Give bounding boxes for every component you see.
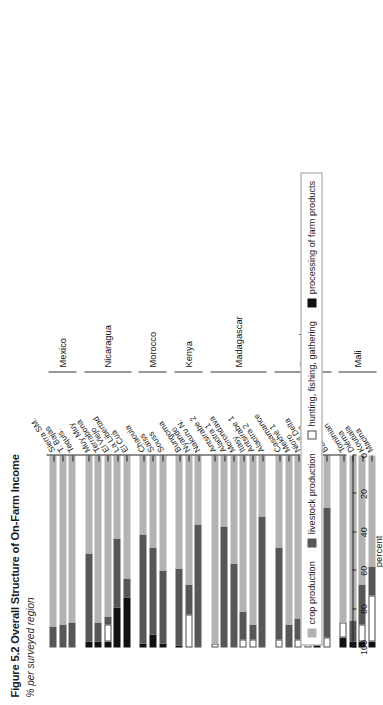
category-tick xyxy=(214,455,215,461)
x-axis-label: percent xyxy=(372,455,383,647)
legend-item-hunt: hunting, fishing, gathering xyxy=(306,321,316,439)
category-tick xyxy=(53,455,54,461)
bar-row xyxy=(275,455,282,647)
bar-row xyxy=(123,455,130,647)
bar-row xyxy=(211,455,218,647)
bar-row xyxy=(185,455,192,647)
bar-segment-live xyxy=(175,568,182,645)
bar-segment-live xyxy=(258,516,265,647)
category-tick xyxy=(143,455,144,461)
bar-segment-live xyxy=(230,563,237,647)
bar-row xyxy=(339,455,346,647)
bar-segment-live xyxy=(275,547,282,639)
legend-label: hunting, fishing, gathering xyxy=(306,321,316,426)
bar-segment-hunt xyxy=(211,643,218,647)
bar-segment-proc xyxy=(123,597,130,647)
bar-segment-crop xyxy=(185,455,192,584)
bar-segment-crop xyxy=(249,455,256,624)
bar-segment-live xyxy=(159,570,166,643)
category-tick xyxy=(198,455,199,461)
bar-row xyxy=(113,455,120,647)
bar-segment-live xyxy=(323,507,330,638)
category-tick xyxy=(72,455,73,461)
bar-segment-live xyxy=(59,624,66,647)
category-tick xyxy=(352,455,353,461)
bar-segment-live xyxy=(285,624,292,647)
x-axis-tick-label: 20 xyxy=(358,488,368,498)
bar-row xyxy=(239,455,246,647)
bar-segment-live xyxy=(185,584,192,615)
bar-segment-hunt xyxy=(239,639,246,647)
bar-row xyxy=(49,455,56,647)
bar-segment-live xyxy=(123,578,130,597)
bar-segment-crop xyxy=(175,455,182,568)
category-tick xyxy=(243,455,244,461)
bar-segment-crop xyxy=(68,455,75,622)
bar-segment-crop xyxy=(159,455,166,570)
bar-segment-proc xyxy=(339,637,346,647)
chart-legend: crop productionlivestock productionhunti… xyxy=(300,172,322,645)
category-tick xyxy=(179,455,180,461)
legend-item-proc: processing of farm products xyxy=(306,180,316,306)
bar-row xyxy=(159,455,166,647)
bar-row xyxy=(323,455,330,647)
bar-segment-crop xyxy=(49,455,56,626)
country-group-name: Mali xyxy=(352,350,362,367)
country-group-rule xyxy=(138,371,166,372)
bar-row xyxy=(59,455,66,647)
category-tick xyxy=(288,455,289,461)
bar-segment-crop xyxy=(59,455,66,624)
bar-segment-hunt xyxy=(339,622,346,637)
category-tick xyxy=(126,455,127,461)
category-tick xyxy=(98,455,99,461)
x-axis-tick-label: 40 xyxy=(358,527,368,537)
category-tick xyxy=(252,455,253,461)
bar-row xyxy=(258,455,265,647)
country-group-name: Mexico xyxy=(57,338,67,367)
category-tick xyxy=(62,455,63,461)
bar-segment-crop xyxy=(230,455,237,563)
country-group-rule xyxy=(174,371,202,372)
figure-subtitle: % per surveyed region xyxy=(24,597,35,697)
bar-segment-crop xyxy=(323,455,330,507)
category-tick xyxy=(88,455,89,461)
bar-segment-live xyxy=(220,526,227,647)
bar-segment-live xyxy=(85,553,92,641)
country-group-rule xyxy=(210,371,267,372)
bar-segment-proc xyxy=(113,607,120,647)
category-tick xyxy=(152,455,153,461)
bar-segment-hunt xyxy=(249,639,256,647)
bar-row xyxy=(85,455,92,647)
country-group-rule xyxy=(338,371,376,372)
bar-segment-crop xyxy=(149,455,156,547)
bar-segment-crop xyxy=(211,455,218,643)
bar-segment-crop xyxy=(94,455,101,622)
x-axis-tick xyxy=(352,531,356,532)
x-axis-tick xyxy=(352,492,356,493)
bar-segment-crop xyxy=(285,455,292,624)
bar-segment-crop xyxy=(239,455,246,611)
bar-segment-crop xyxy=(123,455,130,578)
bar-segment-crop xyxy=(85,455,92,553)
bar-segment-hunt xyxy=(323,637,330,647)
bar-segment-live xyxy=(104,616,111,624)
bar-segment-hunt xyxy=(185,614,192,647)
bar-row xyxy=(220,455,227,647)
x-axis-tick-label: 60 xyxy=(358,565,368,575)
bar-segment-proc xyxy=(139,643,146,647)
category-tick xyxy=(188,455,189,461)
x-axis-tick xyxy=(352,608,356,609)
x-axis-line xyxy=(352,455,353,647)
country-group-name: Nicaragua xyxy=(102,325,112,367)
bar-segment-crop xyxy=(258,455,265,516)
bar-segment-live xyxy=(49,626,56,647)
bar-row xyxy=(94,455,101,647)
bar-segment-proc xyxy=(159,643,166,647)
x-axis-tick-label: 100 xyxy=(358,639,368,654)
category-tick xyxy=(233,455,234,461)
bar-segment-hunt xyxy=(275,639,282,647)
category-tick xyxy=(107,455,108,461)
bar-row xyxy=(249,455,256,647)
bar-segment-live xyxy=(113,538,120,607)
